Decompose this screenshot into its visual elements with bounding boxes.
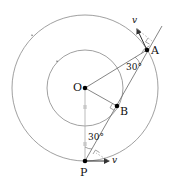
- outer-direction-arrow: [32, 35, 34, 37]
- point-P: [83, 159, 88, 164]
- angle-label-A: 30°: [126, 63, 142, 72]
- velocity-label-A: v: [132, 16, 137, 25]
- angle-label-P: 30°: [88, 133, 104, 142]
- line-OB: [85, 88, 117, 106]
- angle-arc-P: [85, 147, 92, 149]
- label-A: A: [151, 45, 159, 56]
- diagram-canvas: [0, 0, 171, 182]
- point-O: [83, 86, 88, 91]
- velocity-label-P: v: [112, 156, 117, 165]
- label-P: P: [80, 167, 87, 178]
- point-A: [145, 48, 150, 53]
- label-B: B: [120, 106, 128, 117]
- velocity-arrow-A: [137, 29, 147, 50]
- diagram: O A B P 30° 30° v v: [0, 0, 171, 182]
- label-O: O: [73, 82, 82, 93]
- point-B: [115, 104, 120, 109]
